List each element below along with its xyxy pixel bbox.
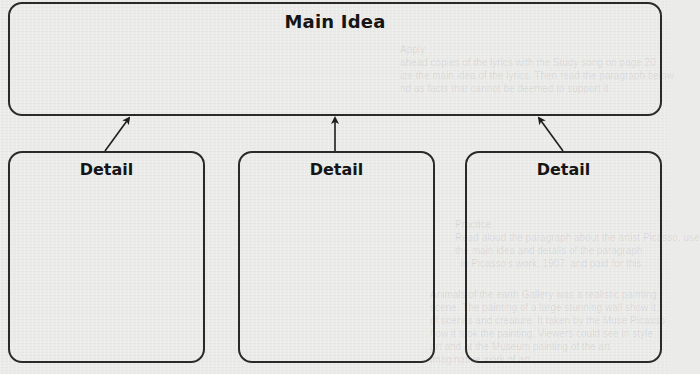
detail-box-1: Detail — [8, 151, 205, 363]
detail-title-2: Detail — [240, 160, 433, 179]
detail-title-1: Detail — [10, 160, 203, 179]
arrow-detail-3-to-main — [539, 118, 563, 151]
main-idea-box: Main Idea — [8, 2, 662, 116]
detail-box-3: Detail — [465, 151, 662, 363]
arrow-detail-1-to-main — [105, 118, 129, 151]
main-idea-title: Main Idea — [10, 11, 660, 32]
detail-box-2: Detail — [238, 151, 435, 363]
detail-title-3: Detail — [467, 160, 660, 179]
